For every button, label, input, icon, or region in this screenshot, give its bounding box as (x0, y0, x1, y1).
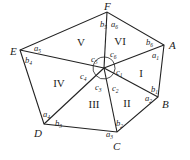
angle-label-c3: c3 (95, 82, 102, 93)
angle-label-a3: a3 (106, 129, 113, 140)
region-label-iii: III (89, 98, 100, 110)
arc-c1 (114, 64, 115, 73)
angle-label-a1: a1 (152, 50, 159, 61)
region-label-i: I (139, 67, 143, 79)
vertex-label-a: A (168, 39, 176, 51)
angle-label-c1: c1 (116, 67, 123, 78)
angle-label-c5: c5 (91, 54, 98, 65)
arc-c4 (93, 66, 96, 76)
angle-label-a2: a2 (145, 93, 152, 104)
hexagon-diagram: ABCDEF IIIIIIIVVVI a1b1a2b2a3b3a4b4a5b5a… (0, 0, 190, 160)
vertex-label-c: C (113, 140, 121, 152)
arc-c3 (96, 76, 106, 80)
region-label-v: V (77, 36, 85, 48)
vertex-label-e: E (9, 45, 17, 57)
angle-label-b4: b4 (25, 55, 32, 66)
region-label-vi: VI (114, 35, 126, 47)
angle-label-c4: c4 (80, 71, 87, 82)
spoke-f (104, 12, 107, 68)
angle-label-a6: a6 (111, 19, 118, 30)
region-label-ii: II (123, 97, 131, 109)
angle-label-b1: b1 (151, 84, 158, 95)
region-label-iv: IV (53, 77, 65, 89)
angle-label-b2: b2 (116, 118, 123, 129)
angle-label-c2: c2 (112, 83, 119, 94)
angle-label-c6: c6 (110, 49, 117, 60)
vertex-label-f: F (103, 0, 111, 12)
vertex-label-b: B (162, 98, 169, 110)
angle-label-b3: b3 (55, 118, 62, 129)
angle-label-a4: a4 (43, 109, 50, 120)
vertex-label-d: D (33, 127, 42, 139)
region-labels: IIIIIIIVVVI (53, 35, 143, 110)
angle-label-a5: a5 (34, 43, 41, 54)
arc-c2 (106, 73, 114, 79)
